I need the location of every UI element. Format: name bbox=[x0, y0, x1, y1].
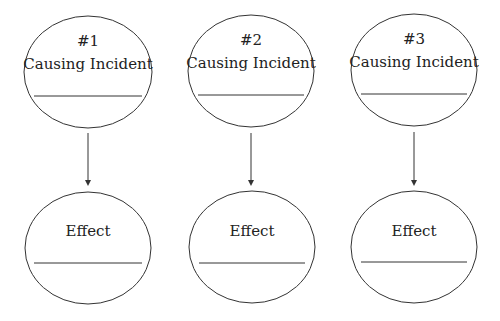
cause-number-3: #3 bbox=[344, 31, 484, 48]
effect-circle-2 bbox=[189, 191, 315, 303]
cause-number-1: #1 bbox=[18, 33, 158, 50]
cause-label-1: Causing Incident bbox=[18, 56, 158, 73]
cause-label-2: Causing Incident bbox=[181, 55, 321, 72]
cause-number-2: #2 bbox=[181, 32, 321, 49]
effect-label-3: Effect bbox=[344, 223, 484, 240]
effect-circle-3 bbox=[351, 191, 477, 303]
effect-label-1: Effect bbox=[18, 223, 158, 240]
cause-label-3: Causing Incident bbox=[344, 54, 484, 71]
effect-circle-1 bbox=[25, 192, 151, 304]
effect-label-2: Effect bbox=[182, 223, 322, 240]
